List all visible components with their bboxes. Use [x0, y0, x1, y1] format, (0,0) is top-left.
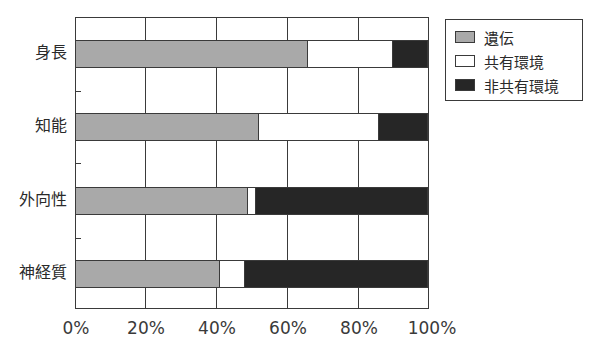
y-minor-tick: [76, 91, 81, 92]
bar-segment-nonshared: [245, 260, 428, 288]
bar-segment-gen: [76, 260, 220, 288]
legend-item-shared-environment: 共有環境: [455, 49, 582, 73]
bar-segment-shared: [259, 113, 379, 141]
bar-segment-nonshared: [379, 113, 428, 141]
bar-segment-gen: [76, 40, 308, 68]
x-tick-label-80: 80%: [340, 318, 378, 338]
bar-segment-nonshared: [393, 40, 428, 68]
legend-swatch-black-icon: [455, 79, 475, 91]
y-minor-tick: [76, 238, 81, 239]
legend-item-nonshared-environment: 非共有環境: [455, 73, 582, 97]
category-label-extraversion: 外向性: [19, 186, 67, 214]
x-tick-label-100: 100%: [408, 318, 457, 338]
bar-height: [76, 40, 428, 68]
bar-segment-nonshared: [256, 187, 428, 215]
legend-label: 非共有環境: [484, 75, 559, 96]
x-tick-label-60: 60%: [269, 318, 307, 338]
plot-area: [75, 17, 429, 309]
x-tick-label-40: 40%: [198, 318, 236, 338]
x-tick-label-20: 20%: [127, 318, 165, 338]
legend-label: 遺伝: [484, 27, 514, 48]
y-minor-tick: [76, 163, 81, 164]
x-tick-label-0: 0%: [63, 318, 90, 338]
bar-segment-gen: [76, 113, 259, 141]
category-label-height: 身長: [35, 39, 67, 67]
bar-segment-shared: [248, 187, 255, 215]
bar-extraversion: [76, 187, 428, 215]
bar-segment-gen: [76, 187, 248, 215]
bar-segment-shared: [220, 260, 245, 288]
legend: 遺伝 共有環境 非共有環境: [445, 19, 583, 101]
legend-swatch-white-icon: [455, 55, 475, 67]
category-label-intelligence: 知能: [35, 112, 67, 140]
legend-label: 共有環境: [484, 51, 544, 72]
bar-neuroticism: [76, 260, 428, 288]
bar-segment-shared: [308, 40, 392, 68]
legend-swatch-gray-icon: [455, 31, 475, 43]
bar-intelligence: [76, 113, 428, 141]
legend-item-genetics: 遺伝: [455, 25, 582, 49]
category-label-neuroticism: 神経質: [19, 259, 67, 287]
